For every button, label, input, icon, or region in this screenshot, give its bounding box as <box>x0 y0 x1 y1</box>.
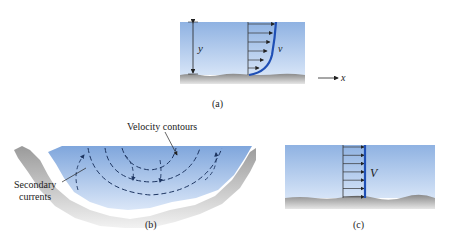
caption-a: (a) <box>212 98 223 110</box>
panel-a-ground <box>180 74 305 84</box>
panel-b: Velocity contours Secondary currents (b) <box>14 121 256 231</box>
x-axis-label: x <box>340 72 346 83</box>
depth-label: y <box>197 42 203 54</box>
panel-c-water <box>285 145 435 198</box>
open-channel-flow-diagram: y v x (a) Velocity contours Secondary cu… <box>0 0 449 245</box>
panel-a: y v x (a) <box>180 22 346 110</box>
panel-c: V (c) <box>285 145 435 231</box>
caption-c: (c) <box>353 219 364 231</box>
velocity-contours-label: Velocity contours <box>127 121 197 132</box>
caption-b: (b) <box>145 219 157 231</box>
secondary-label-line1: Secondary <box>14 179 56 190</box>
velocity-label-a: v <box>278 43 283 54</box>
secondary-label-line2: currents <box>19 191 51 202</box>
